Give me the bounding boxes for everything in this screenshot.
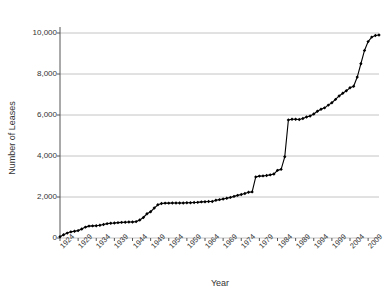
x-axis-tick-label: 1954 bbox=[167, 232, 185, 250]
x-axis-tick-label: 1999 bbox=[330, 232, 348, 250]
x-axis-tick-label: 1929 bbox=[76, 232, 94, 250]
line-chart: Number of Leases 02,0004,0006,0008,00010… bbox=[0, 0, 389, 299]
x-axis-tick-label: 1969 bbox=[221, 232, 239, 250]
x-axis-tick-label: 1989 bbox=[294, 232, 312, 250]
x-axis-tick-label: 1959 bbox=[185, 232, 203, 250]
x-axis-tick-label: 1944 bbox=[131, 232, 149, 250]
x-axis-tick-label: 2009 bbox=[366, 232, 384, 250]
x-axis-tick-label: 1964 bbox=[203, 232, 221, 250]
x-axis-tick-label: 2004 bbox=[348, 232, 366, 250]
x-axis-title: Year bbox=[60, 278, 380, 288]
x-axis-tick-label: 1984 bbox=[276, 232, 294, 250]
x-axis-tick-label: 1934 bbox=[94, 232, 112, 250]
x-axis-tick-label: 1974 bbox=[239, 232, 257, 250]
x-axis-tick-label: 1979 bbox=[257, 232, 275, 250]
x-axis-tick-label: 1994 bbox=[312, 232, 330, 250]
x-axis-tick-label: 1949 bbox=[149, 232, 167, 250]
x-axis-tick-label: 1939 bbox=[112, 232, 130, 250]
x-axis-tick-labels: 1924192919341939194419491954195919641969… bbox=[0, 0, 389, 299]
x-axis-tick-label: 1924 bbox=[58, 232, 76, 250]
